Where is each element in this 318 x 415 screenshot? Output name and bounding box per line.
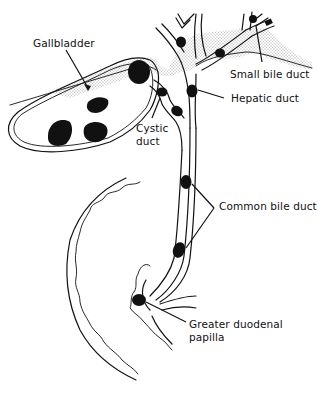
small-bile-duct-stone [249, 15, 257, 23]
cystic-duct-stone [157, 88, 168, 97]
label-cystic-duct-line1: Cystic [136, 122, 168, 134]
label-cystic-duct-line2: duct [136, 135, 160, 147]
label-gallbladder: Gallbladder [33, 37, 95, 49]
gallstone [128, 60, 150, 84]
small-bile-duct-stone [215, 49, 225, 58]
label-small-bile-duct: Small bile duct [230, 68, 310, 80]
small-bile-duct-stone [176, 37, 186, 48]
hepatic-duct-stone [187, 85, 198, 98]
label-papilla-line1: Greater duodenal [189, 318, 283, 330]
common-bile-duct [150, 128, 196, 302]
duodenum [67, 178, 196, 380]
common-bile-duct-stone [181, 175, 192, 189]
label-common-bile-duct: Common bile duct [219, 200, 317, 212]
label-papilla-line2: papilla [189, 331, 225, 343]
gallstone [87, 97, 109, 113]
papilla-stone [132, 294, 146, 306]
label-hepatic-duct: Hepatic duct [231, 92, 299, 104]
gallstone [48, 120, 72, 146]
